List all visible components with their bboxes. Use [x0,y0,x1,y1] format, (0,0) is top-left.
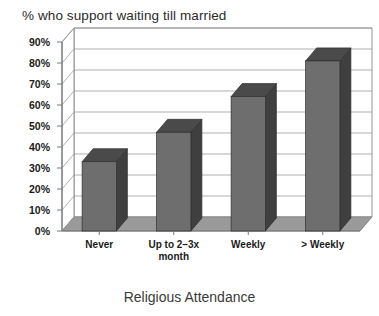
bar-chart: % who support waiting till married 0%10%… [0,0,379,316]
y-axis-tick-label: 60% [4,99,50,111]
y-axis-tick-label: 10% [4,204,50,216]
chart-plot-area [0,0,379,316]
y-axis-tick-label: 0% [4,225,50,237]
y-axis-tick-label: 70% [4,78,50,90]
y-axis-tick-label: 50% [4,120,50,132]
x-axis-category-label: > Weekly [275,239,370,251]
y-axis-tick-label: 90% [4,36,50,48]
x-axis-title: Religious Attendance [0,289,379,305]
y-axis-tick-label: 30% [4,162,50,174]
y-axis-tick-label: 40% [4,141,50,153]
y-axis-tick-labels: 0%10%20%30%40%50%60%70%80%90% [0,0,50,316]
y-axis-tick-label: 80% [4,57,50,69]
y-axis-tick-label: 20% [4,183,50,195]
